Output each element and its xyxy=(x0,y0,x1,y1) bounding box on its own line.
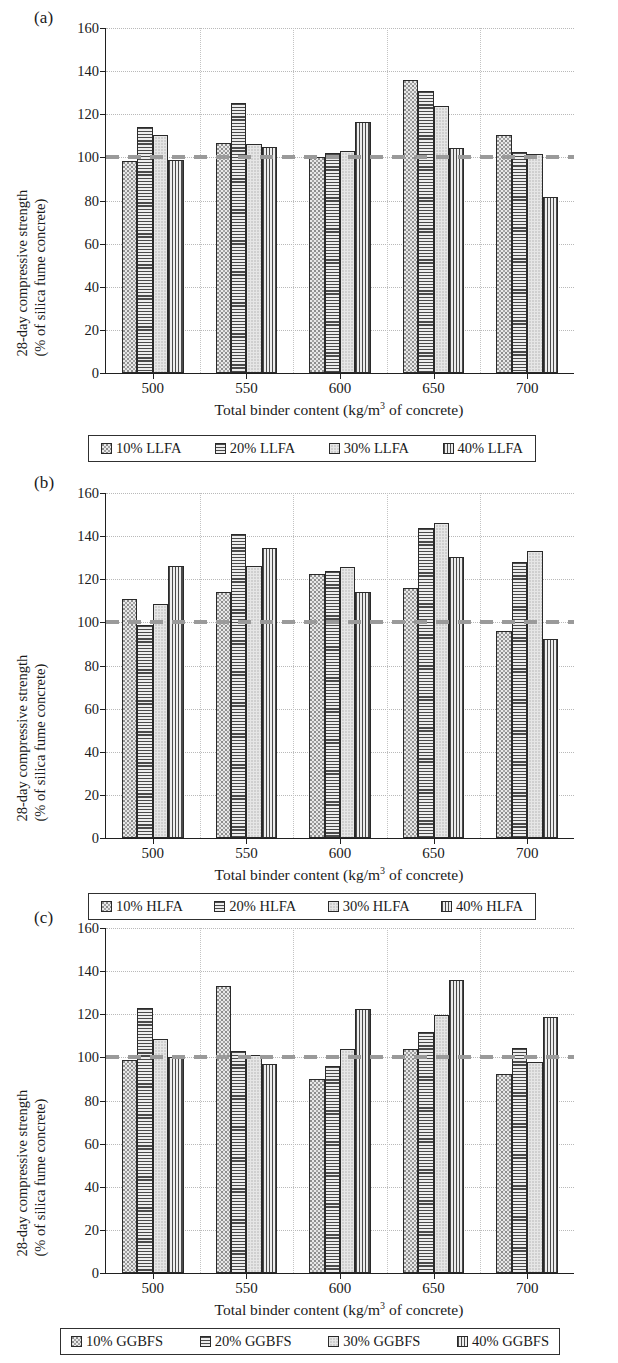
bar xyxy=(137,625,152,838)
plot-area-c: 020406080100120140160500550600650700 xyxy=(105,928,574,1274)
x-axis-tick-mark xyxy=(340,373,341,379)
x-axis-tick-mark xyxy=(434,1273,435,1279)
x-axis-title-pre: Total binder content (kg/m xyxy=(215,866,381,883)
y-axis-tick-mark xyxy=(100,71,106,72)
bar xyxy=(325,1066,340,1273)
legend-label: 30% LLFA xyxy=(344,440,409,457)
x-axis-title-a: Total binder content (kg/m3 of concrete) xyxy=(105,400,573,419)
legend-swatch-horz-icon xyxy=(215,443,226,454)
x-axis-tick-label: 500 xyxy=(142,380,165,397)
y-axis-tick-label: 80 xyxy=(57,192,106,209)
y-axis-title-line2: (% of silica fume concrete) xyxy=(33,198,48,356)
x-axis-title-c: Total binder content (kg/m3 of concrete) xyxy=(105,1300,573,1319)
bar xyxy=(231,534,246,838)
bar xyxy=(403,80,418,373)
reference-line-100-percent xyxy=(106,620,574,624)
x-axis-tick-label: 550 xyxy=(235,845,258,862)
y-axis-tick-label: 140 xyxy=(57,963,106,980)
y-axis-tick-label: 120 xyxy=(57,571,106,588)
x-axis-tick-mark xyxy=(527,838,528,844)
x-axis-tick-mark xyxy=(246,1273,247,1279)
bar xyxy=(418,91,433,373)
y-axis-tick-mark xyxy=(100,1273,106,1274)
y-axis-tick-mark xyxy=(100,373,106,374)
y-axis-tick-label: 160 xyxy=(57,20,106,37)
y-axis-tick-label: 80 xyxy=(57,1092,106,1109)
bar xyxy=(434,106,449,373)
bar xyxy=(168,160,183,373)
y-axis-tick-mark xyxy=(100,928,106,929)
bar xyxy=(403,1049,418,1273)
legend-item: 10% GGBFS xyxy=(71,1333,163,1350)
legend-item: 20% LLFA xyxy=(215,440,295,457)
bar xyxy=(122,161,137,373)
x-axis-tick-mark xyxy=(527,1273,528,1279)
bar xyxy=(449,980,464,1273)
y-axis-tick-label: 100 xyxy=(57,149,106,166)
bar xyxy=(527,154,542,373)
y-axis-title-c: 28-day compressive strength (% of silica… xyxy=(14,926,58,1256)
bar xyxy=(216,986,231,1273)
y-axis-tick-label: 140 xyxy=(57,528,106,545)
y-axis-tick-label: 40 xyxy=(57,278,106,295)
x-axis-tick-label: 600 xyxy=(329,1280,352,1297)
legend-label: 40% GGBFS xyxy=(472,1333,549,1350)
bar xyxy=(434,523,449,838)
y-axis-title-a: 28-day compressive strength (% of silica… xyxy=(14,26,58,356)
gridline-vertical xyxy=(200,493,201,838)
gridline-horizontal xyxy=(106,971,574,972)
y-axis-tick-label: 140 xyxy=(57,63,106,80)
y-axis-tick-label: 100 xyxy=(57,614,106,631)
gridline-vertical xyxy=(200,28,201,373)
bar xyxy=(449,557,464,838)
gridline-vertical xyxy=(293,28,294,373)
y-axis-tick-label: 0 xyxy=(57,1265,106,1282)
x-axis-title-pre: Total binder content (kg/m xyxy=(215,401,381,418)
x-axis-tick-mark xyxy=(434,373,435,379)
y-axis-tick-label: 40 xyxy=(57,743,106,760)
gridline-vertical xyxy=(480,928,481,1273)
legend-item: 40% LLFA xyxy=(443,440,523,457)
gridline-horizontal xyxy=(106,928,574,929)
y-axis-tick-mark xyxy=(100,752,106,753)
x-axis-tick-label: 500 xyxy=(142,1280,165,1297)
x-axis-title-pre: Total binder content (kg/m xyxy=(215,1301,381,1318)
bar xyxy=(231,103,246,373)
legend-label: 20% LLFA xyxy=(230,440,295,457)
y-axis-tick-label: 80 xyxy=(57,657,106,674)
bar xyxy=(262,1064,277,1273)
y-axis-title-b: 28-day compressive strength (% of silica… xyxy=(14,491,58,821)
y-axis-tick-mark xyxy=(100,838,106,839)
chart-panel-c: (c) 28-day compressive strength (% of si… xyxy=(0,900,618,1363)
y-axis-tick-mark xyxy=(100,330,106,331)
bar xyxy=(418,1032,433,1274)
y-axis-tick-mark xyxy=(100,795,106,796)
bar xyxy=(246,1055,261,1273)
x-axis-title-b: Total binder content (kg/m3 of concrete) xyxy=(105,865,573,884)
y-axis-title-line1: 28-day compressive strength xyxy=(15,189,30,356)
y-axis-tick-mark xyxy=(100,1101,106,1102)
x-axis-tick-label: 650 xyxy=(422,380,445,397)
gridline-horizontal xyxy=(106,1014,574,1015)
y-axis-tick-label: 160 xyxy=(57,920,106,937)
bar xyxy=(434,1015,449,1273)
bar xyxy=(449,148,464,373)
bar xyxy=(153,135,168,373)
bar xyxy=(355,122,370,373)
bar xyxy=(403,588,418,838)
bar xyxy=(527,551,542,838)
x-axis-tick-mark xyxy=(246,373,247,379)
y-axis-title-line2: (% of silica fume concrete) xyxy=(33,1098,48,1256)
y-axis-tick-mark xyxy=(100,114,106,115)
x-axis-title-post: of concrete) xyxy=(385,866,463,883)
legend-swatch-dots-icon xyxy=(101,443,112,454)
legend-swatch-solid-icon xyxy=(328,1336,339,1347)
bar xyxy=(512,1048,527,1273)
y-axis-tick-mark xyxy=(100,1230,106,1231)
chart-panel-b: (b) 28-day compressive strength (% of si… xyxy=(0,465,618,900)
x-axis-tick-label: 650 xyxy=(422,1280,445,1297)
bar xyxy=(340,567,355,838)
y-axis-tick-mark xyxy=(100,28,106,29)
reference-line-100-percent xyxy=(106,1055,574,1059)
bar xyxy=(122,599,137,838)
